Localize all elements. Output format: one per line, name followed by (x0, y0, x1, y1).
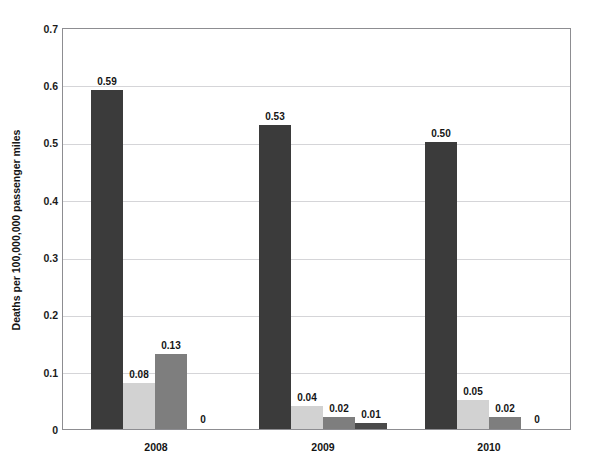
bar-value-2010-series-1: 0.50 (425, 129, 457, 139)
bar-2008-series-2 (123, 383, 155, 429)
y-tick-label-0.7: 0.7 (12, 24, 58, 35)
bar-value-2009-series-3: 0.02 (323, 404, 355, 414)
gridline-0.2 (63, 316, 570, 317)
bar-value-2008-series-2: 0.08 (123, 370, 155, 380)
y-axis-title: Deaths per 100,000,000 passenger miles (10, 110, 22, 350)
bar-value-2008-series-4: 0 (187, 415, 219, 425)
gridline-0.3 (63, 259, 570, 260)
bar-value-2010-series-3: 0.02 (489, 404, 521, 414)
x-category-label-2008: 2008 (108, 441, 204, 453)
bar-2008-series-3 (155, 354, 187, 429)
x-category-label-2009: 2009 (275, 441, 371, 453)
bar-value-2009-series-4: 0.01 (355, 410, 387, 420)
bar-chart: 0.7 0.6 0.5 0.4 0.3 0.2 0.1 0 Deaths per… (0, 0, 592, 465)
y-tick-label-0: 0 (12, 425, 58, 436)
bar-value-2009-series-1: 0.53 (259, 112, 291, 122)
x-category-label-2010: 2010 (441, 441, 537, 453)
bar-value-2008-series-3: 0.13 (155, 341, 187, 351)
y-tick-label-0.6: 0.6 (12, 81, 58, 92)
plot-area: 0.59 0.08 0.13 0 0.53 0.04 0.02 0.01 0.5… (62, 28, 571, 430)
gridline-0.5 (63, 144, 570, 145)
bar-value-2009-series-2: 0.04 (291, 393, 323, 403)
bar-2010-series-2 (457, 400, 489, 429)
bar-2009-series-2 (291, 406, 323, 429)
bar-value-2010-series-4: 0 (521, 415, 553, 425)
bar-value-2008-series-1: 0.59 (91, 77, 123, 87)
gridline-0.4 (63, 201, 570, 202)
bar-2009-series-1 (259, 125, 291, 429)
bar-value-2010-series-2: 0.05 (457, 387, 489, 397)
cropped-title-sliver (55, 0, 385, 2)
y-tick-label-0.1: 0.1 (12, 368, 58, 379)
bar-2010-series-3 (489, 417, 521, 429)
bar-2009-series-4 (355, 423, 387, 429)
bar-2010-series-1 (425, 142, 457, 429)
bar-2008-series-1 (91, 90, 123, 429)
bar-2009-series-3 (323, 417, 355, 429)
gridline-0.6 (63, 86, 570, 87)
